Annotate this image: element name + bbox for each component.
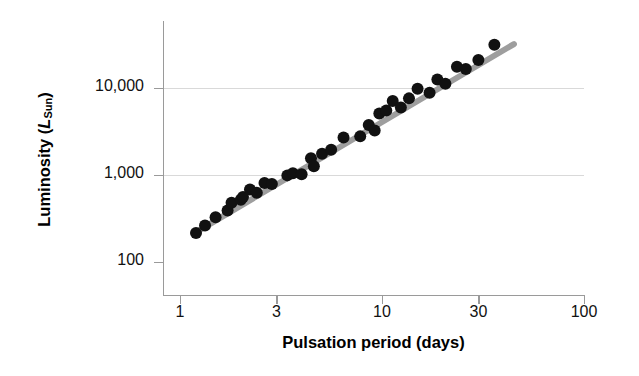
chart-figure: Luminosity (LSun) Pulsation period (days… bbox=[0, 0, 639, 376]
data-point bbox=[412, 83, 424, 95]
data-point bbox=[199, 220, 211, 232]
data-point bbox=[338, 131, 350, 143]
data-point bbox=[325, 144, 337, 156]
data-point bbox=[308, 160, 320, 172]
data-point bbox=[472, 54, 484, 66]
data-point bbox=[296, 168, 308, 180]
data-point bbox=[395, 102, 407, 114]
data-point bbox=[424, 87, 436, 99]
data-point bbox=[488, 39, 500, 51]
plot-area bbox=[0, 0, 639, 376]
data-point bbox=[266, 178, 278, 190]
data-point bbox=[439, 78, 451, 90]
data-point bbox=[251, 187, 263, 199]
data-point bbox=[210, 211, 222, 223]
data-point bbox=[460, 63, 472, 75]
data-point bbox=[369, 124, 381, 136]
data-point bbox=[354, 130, 366, 142]
data-point bbox=[403, 92, 415, 104]
